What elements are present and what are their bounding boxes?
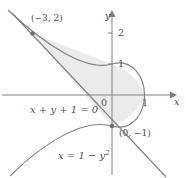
x-axis-label: x xyxy=(174,97,179,107)
origin-label: 0 xyxy=(101,98,107,108)
y-tick-label-2: 2 xyxy=(118,28,124,38)
parabola-equation-base: x = 1 − y xyxy=(58,150,105,161)
parabola-equation-label: x = 1 − y2 xyxy=(58,150,109,161)
parabola-equation-exponent: 2 xyxy=(105,149,109,157)
y-axis-label: y xyxy=(105,11,110,21)
point-label-bottom: (0, −1) xyxy=(119,129,151,138)
figure-container: (−3, 2) y 2 1 0 1 x (0, −1) x + y + 1 = … xyxy=(0,0,186,178)
line-equation-label: x + y + 1 = 0 xyxy=(30,105,98,115)
point-label-top: (−3, 2) xyxy=(31,14,63,23)
intersection-point-bottom xyxy=(110,124,115,129)
intersection-point-top xyxy=(30,31,35,36)
y-tick-label-1: 1 xyxy=(118,59,124,69)
x-tick-label-1: 1 xyxy=(142,98,148,108)
